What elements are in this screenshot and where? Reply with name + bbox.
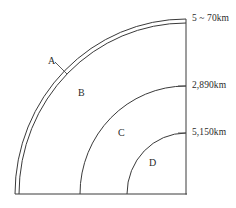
depth-label-outer-core: 5,150km — [192, 128, 226, 138]
arc-crust-outer — [15, 19, 186, 194]
region-label-c: C — [118, 128, 125, 138]
region-label-a: A — [48, 56, 55, 66]
region-label-d: D — [149, 158, 156, 168]
arc-crust-inner — [19, 23, 186, 194]
diagram-canvas — [0, 0, 236, 208]
arc-mantle-boundary — [80, 86, 186, 194]
region-label-b: B — [78, 88, 85, 98]
depth-label-crust: 5 ~ 70km — [192, 14, 229, 24]
depth-label-mantle: 2,890km — [192, 81, 226, 91]
arc-outer-core-boundary — [127, 133, 186, 194]
earth-structure-figure: 5 ~ 70km 2,890km 5,150km A B C D — [0, 0, 236, 208]
leader-line-a — [55, 62, 67, 74]
